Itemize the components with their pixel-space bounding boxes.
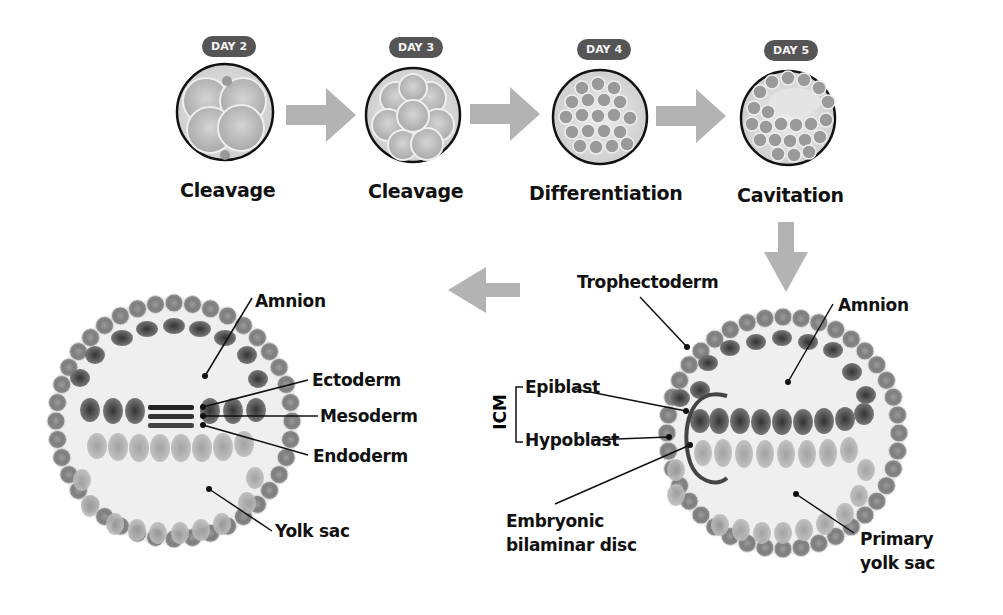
primary-yolk-sac-label-line1: Primary [860, 530, 933, 549]
yolk-sac-label: Yolk sac [275, 522, 350, 541]
arrow-right-icon [470, 87, 540, 141]
arrow-right-icon [656, 89, 726, 143]
primary-yolk-sac-label-line2: yolk sac [860, 554, 935, 573]
endoderm-label: Endoderm [313, 447, 408, 466]
day-badge: DAY 3 [389, 37, 443, 58]
stage-label: Cleavage [180, 180, 275, 201]
ectoderm-label: Ectoderm [312, 371, 401, 390]
amnion-label: Amnion [838, 296, 909, 315]
stage-label: Differentiation [529, 183, 683, 204]
stage-label: Cleavage [368, 181, 463, 202]
arrow-left-icon [448, 267, 520, 313]
trophectoderm-label: Trophectoderm [577, 273, 718, 292]
icm-label: ICM [490, 394, 510, 430]
day-badge: DAY 5 [764, 40, 818, 61]
arrow-down-icon [764, 222, 808, 292]
embryonic-disc-label-line1: Embryonic [506, 512, 604, 531]
day3-embryo-icon [366, 68, 460, 162]
day5-embryo-icon [741, 71, 835, 165]
embryonic-disc-label-line2: bilaminar disc [506, 536, 637, 555]
arrow-right-icon [286, 88, 356, 142]
day4-embryo-icon [553, 70, 647, 164]
amnion-label: Amnion [255, 292, 326, 311]
stage-label: Cavitation [737, 185, 844, 206]
day-badge: DAY 4 [577, 39, 631, 60]
day-badge: DAY 2 [202, 36, 256, 57]
mesoderm-label: Mesoderm [320, 407, 418, 426]
hypoblast-label: Hypoblast [525, 431, 619, 450]
left-embryo-trilaminar-illustration [47, 294, 318, 548]
epiblast-label: Epiblast [525, 378, 600, 397]
day2-embryo-icon [177, 64, 273, 160]
embryo-development-diagram: DAY 2 DAY 3 DAY 4 DAY 5 Cleavage Cleavag… [0, 0, 1003, 615]
